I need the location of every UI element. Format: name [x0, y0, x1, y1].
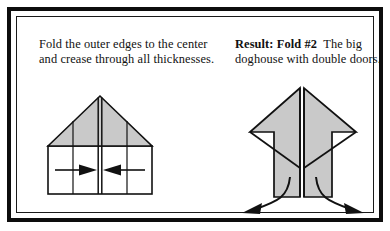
left-instruction-body: Fold the outer edges to the center and c… [39, 37, 214, 66]
right-instruction-text: Result: Fold #2 The big doghouse with do… [235, 37, 390, 67]
result-label: Result: Fold #2 [235, 37, 317, 51]
instruction-panel-inner-border: Fold the outer edges to the center and c… [16, 16, 374, 213]
doghouse-center-split [300, 88, 304, 197]
house-roof [48, 96, 152, 146]
doghouse-right-half [304, 88, 356, 197]
instruction-panel: Fold the outer edges to the center and c… [7, 7, 383, 222]
diagram-house-fold [45, 89, 175, 205]
diagram-doghouse-result [222, 85, 382, 225]
instruction-content: Fold the outer edges to the center and c… [17, 17, 373, 212]
doghouse-left-half [250, 88, 300, 197]
left-instruction-text: Fold the outer edges to the center and c… [39, 37, 225, 67]
doghouse-wing-fold-lines [250, 132, 356, 168]
